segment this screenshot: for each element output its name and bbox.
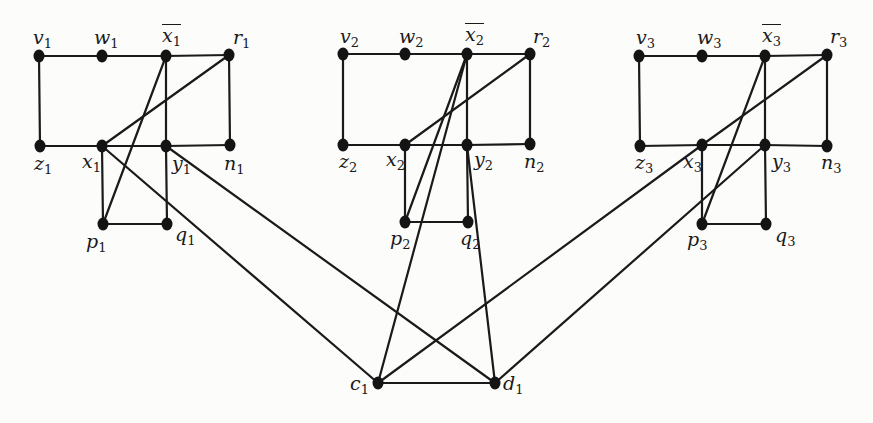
vertex-w3 <box>697 50 708 63</box>
edge-y1-n1 <box>166 145 230 146</box>
graph-canvas <box>0 0 873 423</box>
vertex-c1 <box>373 377 384 390</box>
edge-xbar3-r3 <box>765 55 827 56</box>
edge-xbar3-p3 <box>702 56 765 224</box>
vertex-d1 <box>490 377 501 390</box>
vertex-label-d1: d1 <box>503 374 523 396</box>
vertex-label-w3: w3 <box>697 28 722 50</box>
vertex-label-v3: v3 <box>636 28 655 50</box>
graph-diagram: v1w1x1r1z1x1y1n1p1q1v2w2x2r2z2x2y2n2p2q2… <box>0 0 873 423</box>
vertex-z1 <box>35 140 46 153</box>
vertex-v1 <box>34 50 45 63</box>
vertex-n2 <box>525 138 536 151</box>
vertex-label-xbar1: x1 <box>162 24 181 48</box>
vertex-label-xbar2: x2 <box>465 23 484 47</box>
vertex-v3 <box>634 50 645 63</box>
vertex-label-v1: v1 <box>33 28 52 50</box>
edge-xbar2-c1 <box>378 54 467 383</box>
edge-y3-d1 <box>495 145 765 383</box>
edges-layer <box>39 54 827 383</box>
vertex-label-y2: y2 <box>474 150 493 172</box>
edge-xbar1-p1 <box>103 56 166 224</box>
vertex-label-p1: p1 <box>86 232 106 254</box>
vertex-label-z3: z3 <box>635 153 653 175</box>
edge-y2-n2 <box>467 144 530 145</box>
vertex-y3 <box>760 139 771 152</box>
vertex-label-xbar3: x3 <box>762 24 781 48</box>
vertex-w2 <box>400 48 411 61</box>
vertex-label-c1: c1 <box>350 374 369 396</box>
vertex-w1 <box>97 50 108 63</box>
edge-y3-q3 <box>765 145 766 224</box>
vertex-label-x3: x3 <box>683 152 702 174</box>
vertex-r3 <box>822 49 833 62</box>
vertex-n1 <box>225 139 236 152</box>
edge-z3-x3 <box>640 145 702 146</box>
vertex-label-n2: n2 <box>524 152 545 174</box>
vertex-label-x1: x1 <box>82 152 101 174</box>
vertex-q3 <box>761 218 772 231</box>
vertex-label-x2: x2 <box>386 150 405 172</box>
edge-y2-d1 <box>467 145 495 383</box>
vertex-label-r1: r1 <box>233 28 250 50</box>
vertex-xbar3 <box>760 50 771 63</box>
edge-y1-d1 <box>166 146 495 383</box>
vertex-p1 <box>98 218 109 231</box>
vertex-y2 <box>462 139 473 152</box>
vertex-label-z1: z1 <box>34 154 52 176</box>
vertex-label-y1: y1 <box>172 154 191 176</box>
edge-r1-n1 <box>229 55 230 145</box>
edge-x3-c1 <box>378 145 702 383</box>
vertex-label-p2: p2 <box>390 229 410 251</box>
vertex-label-w2: w2 <box>399 27 424 49</box>
edge-x1-p1 <box>102 146 103 224</box>
vertex-label-v2: v2 <box>340 27 359 49</box>
vertex-label-q1: q1 <box>175 225 195 247</box>
vertex-label-n3: n3 <box>821 153 842 175</box>
edge-v3-z3 <box>639 56 640 146</box>
vertex-v2 <box>338 48 349 61</box>
vertex-label-p3: p3 <box>687 230 707 252</box>
vertex-label-q2: q2 <box>460 229 480 251</box>
edge-x1-c1 <box>102 146 378 383</box>
vertex-label-w1: w1 <box>94 28 119 50</box>
vertex-label-q3: q3 <box>775 226 795 248</box>
edge-y3-n3 <box>765 145 827 146</box>
vertex-label-r3: r3 <box>830 27 847 49</box>
vertex-xbar1 <box>161 50 172 63</box>
vertex-xbar2 <box>462 48 473 61</box>
vertex-r1 <box>224 49 235 62</box>
vertex-r2 <box>525 48 536 61</box>
vertex-q1 <box>162 218 173 231</box>
edge-y1-q1 <box>166 146 167 224</box>
vertex-label-y3: y3 <box>772 152 791 174</box>
vertex-y1 <box>161 140 172 153</box>
edge-v1-z1 <box>39 56 40 146</box>
vertex-label-z2: z2 <box>339 152 357 174</box>
edge-xbar1-r1 <box>166 55 229 56</box>
vertex-label-r2: r2 <box>533 27 550 49</box>
vertex-label-n1: n1 <box>224 154 245 176</box>
